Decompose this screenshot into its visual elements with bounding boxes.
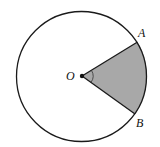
circle-sector-diagram: O A B [0,0,160,147]
diagram-canvas: O A B [0,0,160,147]
label-b: B [136,116,144,130]
shaded-sector [82,42,147,114]
label-o: O [66,69,75,83]
center-point [80,74,84,78]
label-a: A [137,26,146,40]
